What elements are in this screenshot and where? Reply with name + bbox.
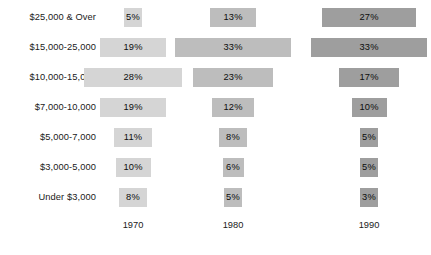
bar: 8% (219, 128, 247, 147)
bar: 19% (100, 98, 167, 117)
bar: 23% (193, 68, 274, 87)
bar-value-label: 17% (359, 73, 378, 82)
category-label: $10,000-15,000 (0, 72, 96, 82)
bar: 5% (124, 8, 142, 27)
bar-value-label: 23% (223, 73, 242, 82)
bar-value-label: 3% (362, 193, 376, 202)
bar: 27% (322, 8, 417, 27)
category-label: $7,000-10,000 (0, 102, 96, 112)
bar: 5% (360, 158, 378, 177)
bar: 28% (84, 68, 182, 87)
bar: 6% (223, 158, 244, 177)
income-distribution-chart: $25,000 & Over$15,000-25,000$10,000-15,0… (0, 0, 431, 255)
bar-value-label: 10% (123, 163, 142, 172)
bar-value-label: 28% (123, 73, 142, 82)
bar-value-label: 12% (223, 103, 242, 112)
bar-value-label: 27% (359, 13, 378, 22)
bar-value-label: 11% (124, 133, 143, 142)
category-axis-labels: $25,000 & Over$15,000-25,000$10,000-15,0… (0, 0, 96, 255)
bar: 5% (224, 188, 242, 207)
bar: 3% (360, 188, 378, 207)
category-label: Under $3,000 (0, 192, 96, 202)
category-label: $5,000-7,000 (0, 132, 96, 142)
year-axis-label: 1980 (223, 220, 244, 230)
year-axis-label: 1970 (123, 220, 144, 230)
bar-value-label: 6% (226, 163, 240, 172)
bar-value-label: 19% (123, 103, 142, 112)
bar: 19% (100, 38, 167, 57)
bar: 33% (175, 38, 291, 57)
bar: 8% (119, 188, 147, 207)
category-label: $25,000 & Over (0, 12, 96, 22)
bar-value-label: 19% (123, 43, 142, 52)
bar-value-label: 8% (226, 133, 240, 142)
year-axis-label: 1990 (359, 220, 380, 230)
bar: 13% (210, 8, 256, 27)
bar-value-label: 5% (362, 163, 376, 172)
bar: 10% (116, 158, 151, 177)
bar: 5% (360, 128, 378, 147)
category-label: $3,000-5,000 (0, 162, 96, 172)
bar-value-label: 33% (223, 43, 242, 52)
bar-value-label: 5% (362, 133, 376, 142)
bar: 11% (114, 128, 153, 147)
bar: 12% (212, 98, 254, 117)
bar-value-label: 10% (359, 103, 378, 112)
category-label: $15,000-25,000 (0, 42, 96, 52)
bar-value-label: 8% (126, 193, 140, 202)
plot-area: 5%19%28%19%11%10%8%197013%33%23%12%8%6%5… (96, 0, 431, 255)
bar-value-label: 5% (126, 13, 140, 22)
bar: 17% (339, 68, 399, 87)
bar-value-label: 33% (359, 43, 378, 52)
bar: 33% (311, 38, 427, 57)
bar: 10% (352, 98, 387, 117)
bar-value-label: 5% (226, 193, 240, 202)
bar-value-label: 13% (223, 13, 242, 22)
